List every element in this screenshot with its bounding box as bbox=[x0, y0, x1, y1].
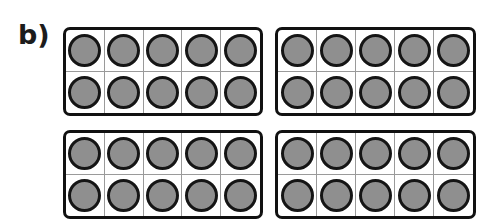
counter-disc bbox=[146, 76, 179, 109]
ten-frame-cell[interactable] bbox=[144, 133, 183, 175]
counter-disc bbox=[359, 179, 392, 212]
ten-frame-cell[interactable] bbox=[182, 30, 221, 72]
counter-disc bbox=[224, 76, 257, 109]
counter-disc bbox=[359, 137, 392, 170]
ten-frame-cell[interactable] bbox=[434, 30, 473, 72]
ten-frame-cell[interactable] bbox=[434, 175, 473, 217]
ten-frame-cell[interactable] bbox=[66, 72, 105, 114]
ten-frame-cell[interactable] bbox=[182, 72, 221, 114]
ten-frame-cell[interactable] bbox=[356, 175, 395, 217]
counter-disc bbox=[398, 179, 431, 212]
ten-frame-top-right[interactable] bbox=[275, 27, 476, 116]
counter-disc bbox=[320, 76, 353, 109]
ten-frame-top-left[interactable] bbox=[63, 27, 263, 116]
counter-disc bbox=[437, 137, 470, 170]
ten-frame-cell[interactable] bbox=[356, 133, 395, 175]
ten-frame-cell[interactable] bbox=[221, 133, 260, 175]
counter-disc bbox=[107, 179, 140, 212]
counter-disc bbox=[146, 34, 179, 67]
part-label: b) bbox=[18, 21, 50, 48]
counter-disc bbox=[320, 137, 353, 170]
counter-disc bbox=[320, 179, 353, 212]
ten-frame-cell[interactable] bbox=[221, 30, 260, 72]
ten-frame-cell[interactable] bbox=[66, 30, 105, 72]
ten-frame-cell[interactable] bbox=[182, 175, 221, 217]
ten-frame-cell[interactable] bbox=[395, 72, 434, 114]
counter-disc bbox=[398, 137, 431, 170]
ten-frame-bottom-left[interactable] bbox=[63, 130, 263, 219]
counter-disc bbox=[224, 34, 257, 67]
ten-frame-cell[interactable] bbox=[317, 133, 356, 175]
ten-frame-cell[interactable] bbox=[434, 72, 473, 114]
counter-disc bbox=[68, 137, 101, 170]
ten-frame-bottom-right[interactable] bbox=[275, 130, 476, 219]
ten-frame-cell[interactable] bbox=[66, 175, 105, 217]
ten-frame-cell[interactable] bbox=[105, 30, 144, 72]
ten-frame-cell[interactable] bbox=[144, 30, 183, 72]
counter-disc bbox=[359, 76, 392, 109]
ten-frame-cell[interactable] bbox=[278, 133, 317, 175]
counter-disc bbox=[398, 34, 431, 67]
counter-disc bbox=[68, 179, 101, 212]
ten-frame-cell[interactable] bbox=[105, 175, 144, 217]
ten-frame-cell[interactable] bbox=[395, 175, 434, 217]
counter-disc bbox=[224, 137, 257, 170]
ten-frame-cell[interactable] bbox=[105, 133, 144, 175]
counter-disc bbox=[281, 137, 314, 170]
counter-disc bbox=[185, 76, 218, 109]
ten-frame-cell[interactable] bbox=[395, 133, 434, 175]
worksheet-figure: b) bbox=[0, 0, 495, 223]
ten-frame-cell[interactable] bbox=[278, 175, 317, 217]
counter-disc bbox=[185, 137, 218, 170]
counter-disc bbox=[107, 137, 140, 170]
counter-disc bbox=[281, 76, 314, 109]
counter-disc bbox=[281, 34, 314, 67]
counter-disc bbox=[359, 34, 392, 67]
ten-frame-cell[interactable] bbox=[317, 72, 356, 114]
ten-frame-cell[interactable] bbox=[278, 30, 317, 72]
counter-disc bbox=[185, 34, 218, 67]
counter-disc bbox=[320, 34, 353, 67]
ten-frame-cell[interactable] bbox=[144, 72, 183, 114]
ten-frame-cell[interactable] bbox=[317, 175, 356, 217]
ten-frame-cell[interactable] bbox=[278, 72, 317, 114]
counter-disc bbox=[437, 34, 470, 67]
counter-disc bbox=[185, 179, 218, 212]
ten-frame-cell[interactable] bbox=[182, 133, 221, 175]
counter-disc bbox=[437, 179, 470, 212]
counter-disc bbox=[68, 34, 101, 67]
ten-frame-cell[interactable] bbox=[221, 72, 260, 114]
counter-disc bbox=[146, 179, 179, 212]
counter-disc bbox=[224, 179, 257, 212]
ten-frame-cell[interactable] bbox=[105, 72, 144, 114]
ten-frame-cell[interactable] bbox=[434, 133, 473, 175]
ten-frame-cell[interactable] bbox=[317, 30, 356, 72]
ten-frame-cell[interactable] bbox=[144, 175, 183, 217]
ten-frame-cell[interactable] bbox=[66, 133, 105, 175]
counter-disc bbox=[437, 76, 470, 109]
counter-disc bbox=[107, 34, 140, 67]
counter-disc bbox=[107, 76, 140, 109]
ten-frame-cell[interactable] bbox=[395, 30, 434, 72]
ten-frame-cell[interactable] bbox=[356, 72, 395, 114]
ten-frame-group bbox=[63, 27, 476, 219]
counter-disc bbox=[68, 76, 101, 109]
counter-disc bbox=[146, 137, 179, 170]
ten-frame-cell[interactable] bbox=[356, 30, 395, 72]
counter-disc bbox=[281, 179, 314, 212]
counter-disc bbox=[398, 76, 431, 109]
ten-frame-cell[interactable] bbox=[221, 175, 260, 217]
